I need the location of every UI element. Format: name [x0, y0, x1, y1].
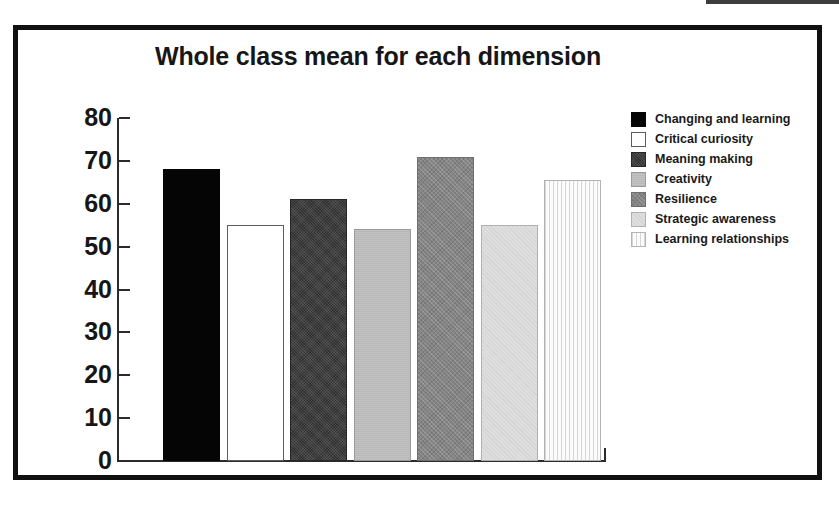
bar	[354, 229, 411, 461]
legend-swatch-icon	[631, 192, 646, 207]
legend-item-label: Changing and learning	[655, 111, 790, 128]
bar	[417, 157, 474, 461]
legend-item: Resilience	[631, 190, 817, 210]
legend-swatch-icon	[631, 152, 646, 167]
legend-item: Meaning making	[631, 150, 817, 170]
legend-item: Creativity	[631, 170, 817, 190]
scan-edge-artifact	[706, 0, 839, 4]
legend-swatch-icon	[631, 172, 646, 187]
legend-item-label: Strategic awareness	[655, 211, 776, 228]
legend-item: Strategic awareness	[631, 210, 817, 230]
bar	[481, 225, 538, 461]
legend-swatch-icon	[631, 232, 646, 247]
chart-page: Whole class mean for each dimension 8070…	[0, 0, 839, 506]
chart-legend: Changing and learningCritical curiosityM…	[631, 110, 817, 250]
bars-group	[18, 30, 817, 475]
legend-swatch-icon	[631, 212, 646, 227]
legend-item: Changing and learning	[631, 110, 817, 130]
legend-item: Critical curiosity	[631, 130, 817, 150]
bar	[163, 169, 220, 461]
bar	[544, 180, 601, 461]
legend-item-label: Critical curiosity	[655, 131, 753, 148]
bar	[290, 199, 347, 461]
legend-item-label: Learning relationships	[655, 231, 789, 248]
bar	[227, 225, 284, 461]
chart-inner: Whole class mean for each dimension 8070…	[18, 30, 817, 475]
legend-item-label: Resilience	[655, 191, 717, 208]
legend-swatch-icon	[631, 132, 646, 147]
chart-frame: Whole class mean for each dimension 8070…	[13, 25, 822, 480]
plot-area: 80706050403020100	[18, 30, 817, 475]
legend-item-label: Creativity	[655, 171, 712, 188]
legend-item: Learning relationships	[631, 230, 817, 250]
legend-item-label: Meaning making	[655, 151, 753, 168]
legend-swatch-icon	[631, 112, 646, 127]
